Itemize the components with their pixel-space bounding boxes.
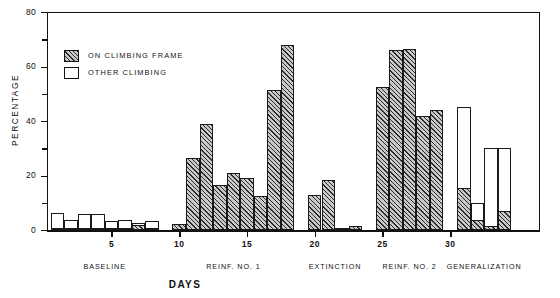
x-tick-25	[382, 232, 383, 237]
x-axis-title: DAYS	[0, 279, 370, 290]
bar-day-3[interactable]	[78, 214, 92, 230]
phase-label-generalization: GENERALIZATION	[424, 262, 544, 271]
y-tick-label-0: 0	[12, 225, 36, 235]
bar-segment-on-climbing-frame	[281, 45, 295, 230]
figure-root: PERCENTAGE 020406080 51015202530 BASELIN…	[0, 0, 560, 298]
bar-segment-on-climbing-frame	[254, 196, 268, 230]
legend-label-on-climbing-frame: ON CLIMBING FRAME	[88, 51, 184, 60]
y-tick-label-60: 60	[12, 61, 36, 71]
bar-day-15[interactable]	[240, 178, 254, 230]
phase-label-baseline: BASELINE	[45, 262, 165, 271]
bar-day-17[interactable]	[267, 90, 281, 230]
bar-segment-on-climbing-frame	[64, 228, 78, 230]
bar-day-11[interactable]	[186, 158, 200, 230]
bar-day-25[interactable]	[376, 87, 390, 230]
legend: ON CLIMBING FRAME OTHER CLIMBING	[64, 47, 184, 81]
bar-day-14[interactable]	[227, 173, 241, 230]
y-tick-0	[41, 230, 48, 231]
bar-day-5[interactable]	[105, 221, 119, 230]
bar-day-32[interactable]	[471, 203, 485, 230]
x-tick-label-10: 10	[164, 239, 194, 249]
y-tick-20	[41, 176, 48, 177]
bar-segment-on-climbing-frame	[91, 228, 105, 230]
y-minor-tick-10	[42, 203, 48, 204]
bar-day-18[interactable]	[281, 45, 295, 230]
bar-day-23[interactable]	[349, 226, 363, 230]
bar-day-16[interactable]	[254, 196, 268, 230]
bar-segment-on-climbing-frame	[51, 228, 65, 230]
bar-segment-on-climbing-frame	[132, 225, 146, 230]
bar-day-29[interactable]	[430, 110, 444, 230]
bar-segment-on-climbing-frame	[227, 173, 241, 230]
legend-item-on-climbing-frame: ON CLIMBING FRAME	[64, 47, 184, 64]
bar-day-22[interactable]	[335, 229, 349, 231]
bar-day-1[interactable]	[51, 213, 65, 230]
y-tick-80	[41, 12, 48, 13]
bar-day-8[interactable]	[145, 221, 159, 230]
x-tick-5	[111, 232, 112, 237]
bar-segment-other-climbing	[484, 148, 498, 230]
x-axis-line	[47, 230, 540, 232]
bar-segment-on-climbing-frame	[308, 195, 322, 230]
y-minor-tick-70	[42, 39, 48, 40]
x-tick-label-30: 30	[435, 239, 465, 249]
bar-segment-on-climbing-frame	[118, 228, 132, 230]
bar-segment-on-climbing-frame	[484, 226, 498, 230]
bar-day-28[interactable]	[416, 116, 430, 230]
legend-swatch-hatched	[64, 50, 79, 62]
x-tick-label-15: 15	[232, 239, 262, 249]
bar-segment-on-climbing-frame	[105, 228, 119, 230]
bar-segment-on-climbing-frame	[457, 188, 471, 230]
bar-segment-on-climbing-frame	[349, 226, 363, 230]
bar-segment-on-climbing-frame	[403, 49, 417, 230]
y-minor-tick-30	[42, 148, 48, 149]
bar-segment-on-climbing-frame	[172, 224, 186, 230]
bar-day-6[interactable]	[118, 220, 132, 230]
legend-swatch-open	[64, 67, 79, 79]
bar-day-2[interactable]	[64, 220, 78, 230]
y-tick-label-40: 40	[12, 116, 36, 126]
bar-segment-on-climbing-frame	[267, 90, 281, 230]
bar-day-4[interactable]	[91, 214, 105, 230]
bar-day-34[interactable]	[498, 148, 512, 230]
y-tick-label-20: 20	[12, 170, 36, 180]
bar-segment-on-climbing-frame	[335, 228, 349, 230]
x-tick-30	[450, 232, 451, 237]
y-tick-60	[41, 67, 48, 68]
bar-day-33[interactable]	[484, 148, 498, 230]
bar-day-20[interactable]	[308, 195, 322, 230]
x-tick-10	[179, 232, 180, 237]
y-tick-40	[41, 121, 48, 122]
bar-segment-on-climbing-frame	[430, 110, 444, 230]
bar-day-27[interactable]	[403, 49, 417, 230]
x-tick-label-20: 20	[300, 239, 330, 249]
bar-segment-on-climbing-frame	[376, 87, 390, 230]
bar-day-10[interactable]	[172, 224, 186, 230]
bar-segment-on-climbing-frame	[416, 116, 430, 230]
bar-day-31[interactable]	[457, 107, 471, 230]
bar-segment-on-climbing-frame	[240, 178, 254, 230]
x-tick-label-25: 25	[367, 239, 397, 249]
bar-segment-on-climbing-frame	[322, 180, 336, 230]
x-tick-20	[315, 232, 316, 237]
bar-segment-on-climbing-frame	[200, 124, 214, 230]
x-tick-15	[247, 232, 248, 237]
bar-segment-on-climbing-frame	[145, 228, 159, 230]
bar-day-13[interactable]	[213, 185, 227, 230]
bar-segment-on-climbing-frame	[471, 220, 485, 230]
y-minor-tick-50	[42, 94, 48, 95]
bar-segment-on-climbing-frame	[78, 228, 92, 230]
bar-day-12[interactable]	[200, 124, 214, 230]
y-tick-label-80: 80	[12, 7, 36, 17]
bar-day-7[interactable]	[132, 223, 146, 230]
bar-segment-on-climbing-frame	[498, 211, 512, 230]
legend-item-other-climbing: OTHER CLIMBING	[64, 64, 184, 81]
bar-segment-on-climbing-frame	[186, 158, 200, 230]
bar-segment-on-climbing-frame	[213, 185, 227, 230]
legend-label-other-climbing: OTHER CLIMBING	[88, 68, 167, 77]
x-tick-label-5: 5	[96, 239, 126, 249]
bar-day-26[interactable]	[389, 50, 403, 230]
bar-day-21[interactable]	[322, 180, 336, 230]
bar-segment-on-climbing-frame	[389, 50, 403, 230]
